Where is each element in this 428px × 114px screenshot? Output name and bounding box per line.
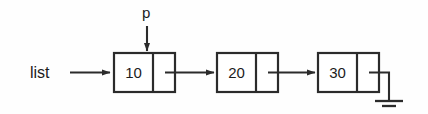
node-pointer-label: p <box>142 4 150 21</box>
node-value: 20 <box>228 64 245 81</box>
head-pointer-label: list <box>30 64 50 81</box>
node-value: 30 <box>329 64 346 81</box>
node-value: 10 <box>125 64 142 81</box>
diagram-canvas: list p 10 20 30 <box>0 0 428 114</box>
linked-list-diagram: list p 10 20 30 <box>0 0 428 114</box>
